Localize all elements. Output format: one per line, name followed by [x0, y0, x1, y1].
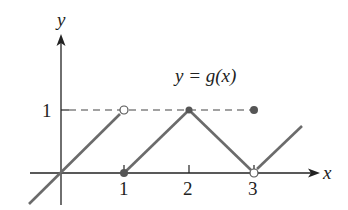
axes: [30, 34, 320, 205]
function-graph: y x 1 1 2 3 y = g(x): [0, 0, 348, 210]
segment-1: [29, 114, 120, 204]
open-point-1-1: [120, 106, 128, 114]
y-axis-label: y: [55, 9, 66, 30]
open-point-3-0: [250, 169, 258, 177]
x-tick-label-1: 1: [119, 178, 129, 199]
filled-point-2-1: [186, 107, 193, 114]
function-curve: [29, 110, 302, 204]
y-tick-label-1: 1: [42, 100, 52, 121]
function-label: y = g(x): [173, 65, 236, 87]
segment-2: [124, 110, 189, 173]
x-tick-label-3: 3: [248, 178, 258, 199]
x-axis-label: x: [322, 162, 332, 183]
filled-point-3-1: [250, 106, 258, 114]
filled-point-1-0: [120, 169, 128, 177]
segment-3: [189, 110, 251, 170]
segment-4: [257, 126, 302, 169]
x-tick-label-2: 2: [183, 178, 193, 199]
